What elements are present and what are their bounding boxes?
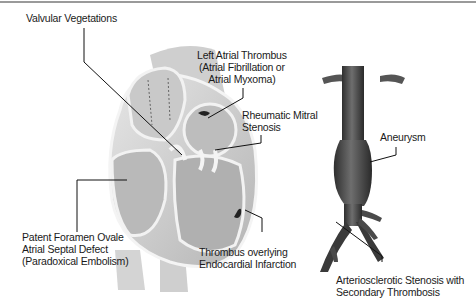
label-aneurysm: Aneurysm: [380, 131, 426, 143]
label-line: Stenosis: [242, 121, 318, 133]
label-arteriosclerotic-stenosis: Arteriosclerotic Stenosis with Secondary…: [336, 274, 464, 298]
label-line: Atrial Myxoma): [197, 73, 287, 85]
label-line: Rheumatic Mitral: [242, 109, 318, 121]
label-patent-foramen-ovale: Patent Foramen Ovale Atrial Septal Defec…: [22, 231, 128, 267]
label-valvular-vegetations: Valvular Vegetations: [26, 12, 117, 24]
label-line: Endocardial Infarction: [199, 258, 296, 270]
label-line: Patent Foramen Ovale: [22, 231, 128, 243]
label-line: Thrombus overlying: [199, 246, 296, 258]
label-line: Valvular Vegetations: [26, 12, 117, 24]
label-line: Atrial Septal Defect: [22, 243, 128, 255]
label-thrombus-endocardial-infarction: Thrombus overlying Endocardial Infarctio…: [199, 246, 296, 270]
label-line: (Paradoxical Embolism): [22, 255, 128, 267]
label-line: Aneurysm: [380, 131, 426, 143]
label-line: Arteriosclerotic Stenosis with: [336, 274, 464, 286]
label-rheumatic-mitral-stenosis: Rheumatic Mitral Stenosis: [242, 109, 318, 133]
label-line: Secondary Thrombosis: [336, 286, 464, 298]
label-left-atrial-thrombus: Left Atrial Thrombus (Atrial Fibrillatio…: [197, 49, 287, 85]
label-line: (Atrial Fibrillation or: [197, 61, 287, 73]
label-line: Left Atrial Thrombus: [197, 49, 287, 61]
